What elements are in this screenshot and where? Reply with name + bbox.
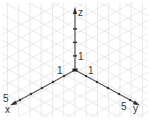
y-axis-label: y	[133, 103, 138, 114]
y-tick-4	[118, 93, 120, 95]
x-tick-1	[63, 75, 65, 77]
x-tick-label-1: 1	[57, 65, 63, 76]
y-tick-5	[129, 99, 131, 101]
x-tick-2	[52, 81, 54, 83]
x-arrow-icon	[10, 101, 17, 106]
x-tick-label-5: 5	[3, 93, 9, 104]
x-tick-5	[19, 99, 21, 101]
z-axis: z 1	[73, 7, 84, 70]
z-tick-2	[73, 42, 77, 43]
y-tick-1	[85, 75, 87, 77]
y-tick-2	[96, 81, 98, 83]
origin-marker	[73, 69, 78, 72]
x-axis-label: x	[5, 104, 10, 115]
z-tick-1	[73, 55, 77, 56]
x-tick-3	[41, 87, 43, 89]
isometric-axes-diagram: z 1 1 5 x 1 5 y	[0, 0, 150, 121]
y-tick-3	[107, 87, 109, 89]
z-arrow-icon	[73, 7, 77, 14]
y-tick-label-5: 5	[121, 101, 127, 112]
y-tick-label-1: 1	[88, 65, 94, 76]
x-tick-4	[30, 93, 32, 95]
z-axis-label: z	[78, 7, 83, 18]
axes-canvas: z 1 1 5 x 1 5 y	[0, 0, 150, 121]
z-tick-3	[73, 28, 77, 29]
z-tick-label-1: 1	[78, 51, 84, 62]
